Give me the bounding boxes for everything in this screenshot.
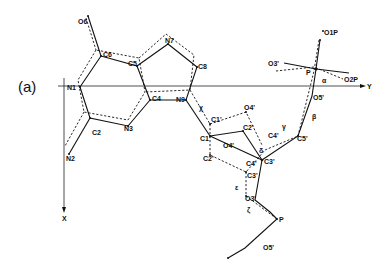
svg-text:N2: N2 bbox=[66, 155, 75, 162]
svg-text:C8: C8 bbox=[198, 63, 207, 70]
svg-text:ζ: ζ bbox=[247, 206, 251, 214]
svg-text:O1P: O1P bbox=[324, 29, 338, 36]
svg-text:C4: C4 bbox=[152, 95, 161, 102]
svg-text:χ: χ bbox=[199, 104, 203, 112]
svg-text:C3': C3' bbox=[247, 172, 258, 179]
atom-labels: O6 C6 C5 N7 C8 N9 C4 N3 C2 N1 N2 C1' O4'… bbox=[66, 18, 358, 251]
phosphate-group bbox=[276, 30, 349, 79]
base-solid bbox=[69, 16, 210, 154]
svg-text:C2': C2' bbox=[243, 124, 254, 131]
svg-text:α: α bbox=[322, 77, 327, 84]
base-dashed bbox=[65, 18, 210, 146]
svg-text:P: P bbox=[279, 216, 284, 223]
svg-text:C4': C4' bbox=[246, 160, 257, 167]
svg-text:N1: N1 bbox=[67, 84, 76, 91]
y-axis-label: Y bbox=[367, 83, 372, 90]
panel-label: (a) bbox=[18, 78, 36, 95]
svg-text:O3': O3' bbox=[245, 195, 256, 202]
svg-text:O5': O5' bbox=[263, 244, 274, 251]
svg-text:C1': C1' bbox=[200, 135, 211, 142]
x-axis-arrow-icon bbox=[62, 207, 66, 213]
svg-text:N7: N7 bbox=[165, 37, 174, 44]
svg-text:C6: C6 bbox=[103, 51, 112, 58]
svg-text:C2': C2' bbox=[203, 155, 214, 162]
svg-text:N9: N9 bbox=[176, 96, 185, 103]
sugar-solid bbox=[210, 69, 316, 258]
y-axis-arrow-icon bbox=[360, 84, 366, 88]
svg-text:C5: C5 bbox=[128, 60, 137, 67]
svg-text:C5': C5' bbox=[297, 135, 308, 142]
svg-text:C1': C1' bbox=[211, 116, 222, 123]
svg-text:C3': C3' bbox=[264, 158, 275, 165]
x-axis-label: X bbox=[62, 215, 67, 222]
svg-text:O4': O4' bbox=[223, 142, 234, 149]
svg-text:C4': C4' bbox=[268, 132, 279, 139]
svg-text:O2P: O2P bbox=[344, 76, 358, 83]
torsion-labels: χ α β γ δ ε ζ bbox=[199, 77, 327, 214]
svg-text:O3': O3' bbox=[268, 60, 279, 67]
svg-text:P: P bbox=[306, 69, 311, 76]
svg-text:O4': O4' bbox=[244, 104, 255, 111]
svg-text:O5': O5' bbox=[313, 94, 324, 101]
svg-text:β: β bbox=[312, 113, 317, 121]
svg-text:ε: ε bbox=[235, 184, 239, 191]
svg-text:O6: O6 bbox=[78, 18, 87, 25]
svg-text:C2: C2 bbox=[92, 129, 101, 136]
molecular-structure-diagram: Y X (a) bbox=[0, 0, 383, 269]
svg-text:γ: γ bbox=[282, 123, 286, 131]
svg-text:N3: N3 bbox=[124, 125, 133, 132]
coordinate-axes: Y X bbox=[58, 78, 372, 222]
svg-text:δ: δ bbox=[259, 147, 263, 154]
